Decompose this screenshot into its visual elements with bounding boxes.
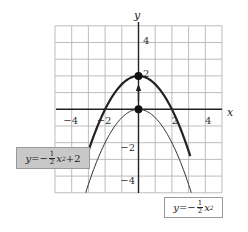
upper-prefix: y=−	[25, 153, 47, 164]
vertex-point	[135, 105, 143, 113]
y-tick-label: −4	[120, 175, 135, 186]
x-tick-labels: −4−224	[63, 115, 211, 126]
legend-upper-equation: y=− 1 2 x2+2	[16, 147, 90, 169]
y-axis-label: y	[133, 9, 141, 22]
arrow-up-icon	[136, 84, 141, 91]
y-tick-label: −2	[120, 142, 135, 153]
y-tick-label: 4	[143, 35, 149, 46]
lower-exponent: 2	[210, 204, 214, 211]
x-tick-label: −4	[63, 115, 78, 126]
x-tick-label: 4	[205, 115, 211, 126]
lower-fraction: 1 2	[197, 200, 203, 215]
upper-fraction: 1 2	[49, 151, 55, 166]
lower-denominator: 2	[198, 208, 202, 215]
vertex-point	[135, 72, 143, 80]
upper-suffix: +2	[66, 153, 81, 164]
lower-prefix: y=−	[173, 202, 195, 213]
upper-denominator: 2	[50, 159, 54, 166]
x-axis-label: x	[227, 106, 234, 119]
legend-lower-equation: y=− 1 2 x2	[164, 197, 223, 218]
